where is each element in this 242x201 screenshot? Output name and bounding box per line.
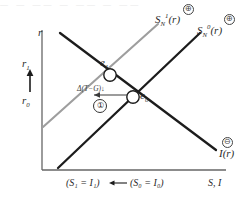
y-tick-label-r1: r1	[22, 58, 30, 72]
x-equilibrium-label-1: (S₁ = I₁)	[66, 178, 100, 188]
shift-arrow	[94, 92, 130, 98]
equilibrium-marker-e0	[127, 91, 139, 103]
y-tick-label-r0: r0	[22, 95, 30, 109]
sign-plus-icon-savings-1: ⊕	[183, 4, 194, 15]
rate-increase-arrow	[27, 69, 34, 92]
point-label-e1: e1	[100, 57, 108, 71]
curve-label-investment: I(r)	[219, 148, 234, 159]
x-equilibrium-label-0: (S₀ = I₀)	[130, 178, 164, 188]
sign-plus-icon-savings-0: ⊕	[224, 14, 235, 25]
curve-label-savings-0: SN0(r)	[197, 24, 222, 39]
step-number-badge: ①	[93, 99, 107, 113]
curve-label-savings-1: SN1(r)	[155, 13, 180, 28]
economics-diagram: — — —— — —— — —— r S, I	[0, 0, 242, 201]
quantity-decrease-arrow	[109, 181, 127, 186]
x-axis-label: S, I	[208, 178, 221, 188]
point-label-e0: e0	[140, 90, 148, 104]
shift-annotation-label: Δ(T−G)↓	[77, 85, 105, 93]
y-axis-label: r	[38, 27, 42, 38]
sign-minus-icon-investment: ⊖	[222, 137, 233, 148]
